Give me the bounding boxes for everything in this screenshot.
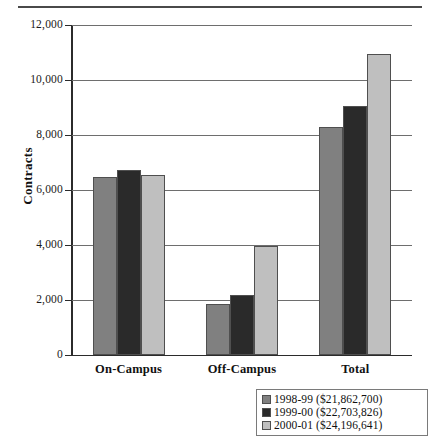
y-axis-tick-label: 0	[5, 349, 63, 361]
x-axis-line	[71, 355, 412, 356]
legend-label: 1998-99 ($21,862,700)	[274, 394, 382, 406]
gridline	[72, 25, 412, 26]
chart-legend: 1998-99 ($21,862,700) 1999-00 ($22,703,8…	[256, 389, 428, 436]
legend-label: 1999-00 ($22,703,826)	[274, 407, 382, 419]
legend-item: 2000-01 ($24,196,641)	[262, 419, 423, 432]
bar	[206, 304, 230, 355]
x-axis-category-label: On-Campus	[69, 362, 189, 377]
legend-swatch-icon	[262, 395, 271, 404]
y-axis-tick-label: 6,000	[5, 184, 63, 196]
y-axis-tick-label: 4,000	[5, 239, 63, 251]
bar	[319, 127, 343, 355]
bar	[141, 175, 165, 355]
legend-item: 1999-00 ($22,703,826)	[262, 406, 423, 419]
gridline	[72, 80, 412, 81]
bar	[93, 177, 117, 355]
x-axis-category-label: Total	[295, 362, 415, 377]
bar	[254, 246, 278, 355]
bar	[117, 170, 141, 355]
bar	[367, 54, 391, 355]
y-axis-tick	[65, 245, 72, 246]
legend-swatch-icon	[262, 421, 271, 430]
y-axis-tick-label: 10,000	[5, 74, 63, 86]
legend-item: 1998-99 ($21,862,700)	[262, 393, 423, 406]
legend-label: 2000-01 ($24,196,641)	[274, 420, 382, 432]
y-axis-tick-label: 12,000	[5, 19, 63, 31]
x-axis-category-label: Off-Campus	[182, 362, 302, 377]
bar	[230, 295, 254, 356]
y-axis-tick	[65, 25, 72, 26]
y-axis-tick	[65, 80, 72, 81]
y-axis-tick	[65, 135, 72, 136]
y-axis-tick	[65, 300, 72, 301]
y-axis-tick	[65, 190, 72, 191]
y-axis-tick	[65, 355, 72, 356]
y-axis-tick-label: 8,000	[5, 129, 63, 141]
legend-swatch-icon	[262, 408, 271, 417]
y-axis-tick-label: 2,000	[5, 294, 63, 306]
bar	[343, 106, 367, 355]
